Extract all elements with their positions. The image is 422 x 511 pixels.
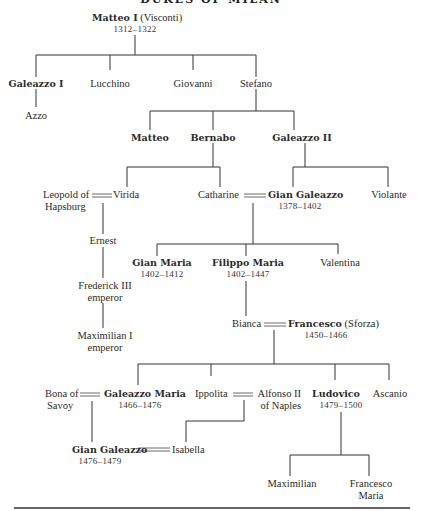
person-matteo: Matteo — [131, 132, 169, 144]
person-frederick-iii: Frederick III emperor — [78, 280, 131, 304]
person-bernabo: Bernabo — [190, 132, 235, 144]
person-name-line1: Maximilian I — [77, 330, 132, 342]
person-galeazzo-i: Galeazzo I — [9, 78, 64, 90]
person-name-line1: Bona of — [45, 388, 79, 400]
person-ernest: Ernest — [90, 235, 117, 247]
person-valentina: Valentina — [320, 257, 360, 269]
person-stefano: Stefano — [240, 78, 272, 90]
person-name-line2: of Naples — [254, 400, 301, 412]
person-name-line2: Maria — [350, 490, 393, 502]
person-lucchino: Lucchino — [90, 78, 130, 90]
person-virida: Virida — [113, 189, 139, 201]
person-filippo-maria: Filippo Maria — [212, 257, 284, 269]
person-name-line2: emperor — [78, 292, 131, 304]
person-leopold: Leopold of Hapsburg — [43, 189, 89, 213]
person-name-line2: Hapsburg — [43, 201, 89, 213]
person-ippolita: Ippolita — [195, 388, 228, 400]
person-catharine: Catharine — [198, 189, 239, 201]
person-violante: Violante — [371, 189, 407, 201]
person-giovanni: Giovanni — [173, 78, 212, 90]
person-ascanio: Ascanio — [373, 388, 407, 400]
person-isabella: Isabella — [172, 444, 205, 456]
reign-francesco: 1450–1466 — [304, 330, 347, 341]
reign-galeazzo-maria: 1466–1476 — [118, 400, 161, 411]
person-name-line1: Leopold of — [43, 189, 89, 201]
person-suffix: (Sforza) — [345, 318, 379, 329]
person-azzo: Azzo — [25, 110, 47, 122]
person-gian-maria: Gian Maria — [132, 257, 192, 269]
reign-gian-maria: 1402–1412 — [140, 269, 183, 280]
reign-matteo-i: 1312–1322 — [113, 24, 156, 35]
reign-filippo-maria: 1402–1447 — [226, 269, 269, 280]
person-matteo-i: Matteo I (Visconti) — [92, 12, 182, 24]
person-maximilian: Maximilian — [268, 478, 317, 490]
reign-gian-galeazzo-2: 1476–1479 — [78, 456, 121, 467]
person-name-line2: emperor — [77, 342, 132, 354]
person-name: Matteo I — [92, 12, 138, 23]
person-gian-galeazzo: Gian Galeazzo — [268, 189, 343, 201]
person-name-line1: Frederick III — [78, 280, 131, 292]
person-bianca: Bianca — [232, 318, 261, 330]
person-ludovico: Ludovico — [312, 388, 360, 400]
person-alfonso-ii: Alfonso II of Naples — [254, 388, 301, 412]
person-francesco-maria: Francesco Maria — [350, 478, 393, 502]
person-name-line1: Alfonso II — [254, 388, 301, 400]
person-bona: Bona of Savoy — [45, 388, 79, 412]
person-francesco: Francesco (Sforza) — [288, 318, 379, 330]
person-galeazzo-maria: Galeazzo Maria — [104, 388, 186, 400]
reign-gian-galeazzo: 1378–1402 — [278, 201, 321, 212]
person-galeazzo-ii: Galeazzo II — [272, 132, 331, 144]
person-suffix: (Visconti) — [140, 12, 182, 23]
person-maximilian-i: Maximilian I emperor — [77, 330, 132, 354]
reign-ludovico: 1479–1500 — [319, 400, 362, 411]
person-name-line1: Francesco — [350, 478, 393, 490]
tree-connectors — [0, 0, 422, 511]
person-name-line2: Savoy — [45, 400, 79, 412]
person-name: Francesco — [288, 318, 342, 329]
person-gian-galeazzo-2: Gian Galeazzo — [72, 444, 147, 456]
